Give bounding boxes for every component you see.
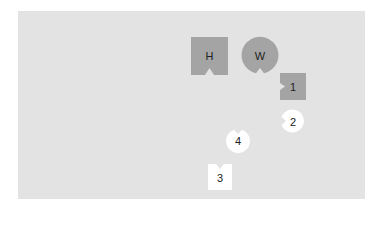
piece-2: 2 [282, 110, 304, 133]
piece-2-label: 2 [290, 116, 296, 128]
piece-1-label: 1 [290, 81, 296, 93]
piece-h: H [191, 37, 228, 75]
piece-4: 4 [226, 130, 250, 153]
piece-w-label: W [255, 50, 266, 62]
piece-4-label: 4 [235, 135, 241, 147]
piece-w: W [242, 37, 279, 74]
piece-1: 1 [280, 73, 306, 100]
piece-h-label: H [206, 50, 214, 62]
piece-3: 3 [208, 164, 232, 190]
piece-3-label: 3 [217, 172, 223, 184]
